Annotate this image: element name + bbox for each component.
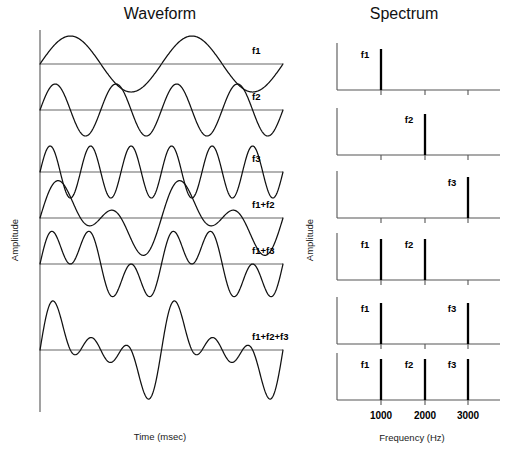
waveform-trace-label: f2: [252, 91, 260, 102]
spectrum-x-axis-label: Frequency (Hz): [379, 432, 444, 443]
waveform-trace-label: f1+f2+f3: [252, 331, 288, 342]
spectrum-peak-label: f1: [361, 49, 370, 60]
spectrum-peak-label: f3: [448, 177, 456, 188]
spectrum-tick-label: 1000: [370, 410, 393, 421]
spectrum-peak-label: f3: [448, 303, 456, 314]
waveform-x-axis-label: Time (msec): [134, 431, 186, 442]
spectrum-tick-label: 2000: [414, 410, 437, 421]
waveform-trace-label: f1+f2: [252, 199, 274, 210]
figure-background: [0, 0, 508, 460]
spectrum-peak-label: f2: [405, 114, 413, 125]
spectrum-peak-label: f3: [448, 359, 456, 370]
waveform-trace-label: f3: [252, 153, 260, 164]
spectrum-peak-label: f1: [361, 303, 370, 314]
spectrum-tick-labels: 100020003000: [370, 410, 480, 421]
waveform-trace-label: f1+f3: [252, 245, 274, 256]
spectrum-y-axis-label: Amplitude: [304, 219, 315, 261]
waveform-y-axis-label: Amplitude: [9, 219, 20, 261]
spectrum-panel-title: Spectrum: [370, 5, 438, 22]
spectrum-peak-label: f2: [405, 239, 413, 250]
spectrum-peak-label: f2: [405, 359, 413, 370]
spectrum-peak-label: f1: [361, 359, 370, 370]
spectrum-peak-label: f1: [361, 239, 370, 250]
waveform-panel-title: Waveform: [124, 5, 196, 22]
signal-figure: Waveform Amplitude Time (msec) f1f2f3f1+…: [0, 0, 508, 460]
waveform-trace-label: f1: [252, 45, 261, 56]
spectrum-tick-label: 3000: [457, 410, 480, 421]
